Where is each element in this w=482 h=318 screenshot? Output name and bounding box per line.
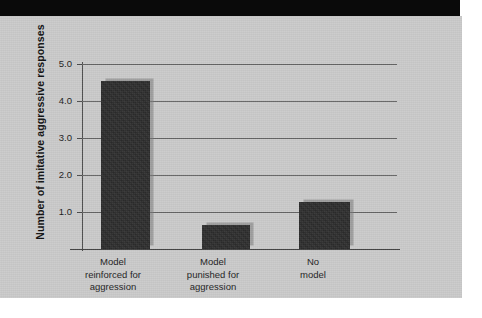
bar	[202, 225, 250, 249]
x-axis-category-label: Nomodel	[248, 256, 378, 281]
category-label-line: aggression	[148, 281, 278, 294]
y-tick-label: 1.0	[46, 206, 72, 217]
y-tick-label: 4.0	[46, 95, 72, 106]
bar-face	[299, 202, 350, 249]
y-axis-title: Number of imitative aggressive responses	[34, 22, 46, 242]
chart-panel: Number of imitative aggressive responses…	[0, 16, 462, 298]
gridline	[82, 64, 397, 65]
plot-area	[82, 64, 397, 249]
bar	[299, 202, 350, 249]
bar	[101, 81, 150, 249]
x-axis-line	[70, 249, 400, 250]
bar-face	[202, 225, 250, 249]
y-tick-label: 5.0	[46, 58, 72, 69]
y-tick-label: 2.0	[46, 169, 72, 180]
category-label-line: model	[248, 269, 378, 282]
y-tick-label: 3.0	[46, 132, 72, 143]
header-band	[0, 0, 460, 16]
bar-face	[101, 81, 150, 249]
category-label-line: No	[248, 256, 378, 269]
figure: Number of imitative aggressive responses…	[0, 0, 482, 318]
